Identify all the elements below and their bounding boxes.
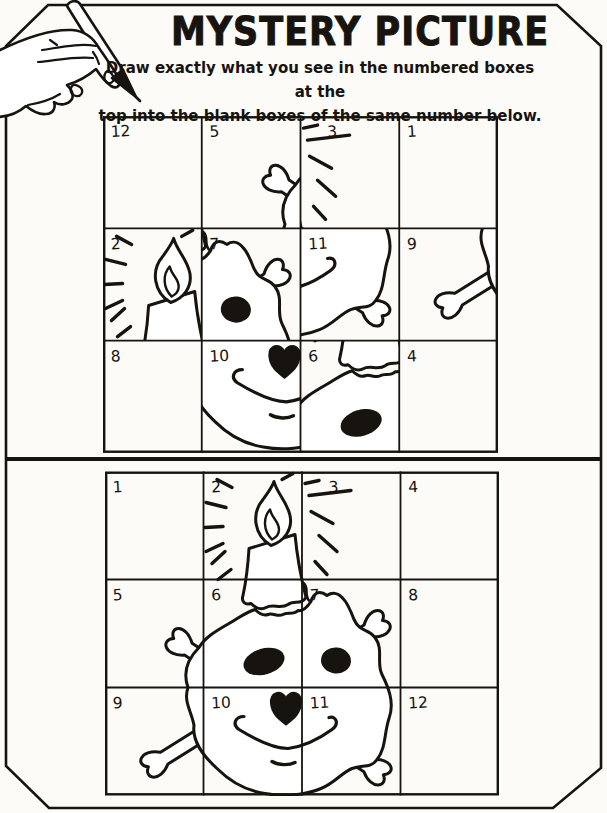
top-grid: 125312711981064 xyxy=(103,116,498,453)
cell-number: 9 xyxy=(112,694,123,712)
cell-number: 1 xyxy=(112,478,123,496)
picture-piece-9 xyxy=(433,116,498,336)
grid-lines xyxy=(105,472,499,796)
bottom-grid: 123456789101112 xyxy=(105,471,499,796)
cell-number: 10 xyxy=(209,347,230,366)
cell-number: 8 xyxy=(408,586,419,604)
cell-number: 1 xyxy=(407,123,418,141)
cell-number: 3 xyxy=(327,123,338,141)
cell-number: 11 xyxy=(309,693,330,712)
cell-number: 9 xyxy=(407,235,418,253)
cell-number: 5 xyxy=(112,586,123,604)
cell-number: 7 xyxy=(209,235,220,253)
cell-number: 6 xyxy=(211,586,222,604)
section-divider xyxy=(6,457,601,461)
cell-number: 11 xyxy=(308,234,329,253)
cell-number: 2 xyxy=(110,235,121,253)
assembled-picture xyxy=(138,474,393,796)
page-title: MYSTERY PICTURE xyxy=(140,10,580,54)
instructions-line1: Draw exactly what you see in the numbere… xyxy=(96,56,544,104)
worksheet-page: MYSTERY PICTURE Draw exactly what you se… xyxy=(0,0,607,813)
cell-number: 8 xyxy=(110,347,121,365)
cell-number: 4 xyxy=(407,347,418,365)
cell-number: 3 xyxy=(328,478,339,496)
cell-number: 5 xyxy=(209,123,220,141)
cell-number: 7 xyxy=(309,586,320,604)
cell-number: 6 xyxy=(308,347,319,365)
cell-number: 4 xyxy=(408,478,419,496)
cell-number: 10 xyxy=(211,693,232,712)
cell-number: 2 xyxy=(211,478,222,496)
cell-number: 12 xyxy=(408,693,429,712)
cell-number: 12 xyxy=(110,122,131,141)
